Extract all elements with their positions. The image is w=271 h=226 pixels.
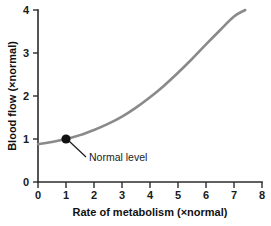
x-tick-label-3: 3 bbox=[119, 189, 125, 201]
normal-level-marker-dot bbox=[61, 134, 70, 143]
y-tick-label-4: 4 bbox=[23, 4, 30, 16]
x-tick-label-4: 4 bbox=[147, 189, 154, 201]
normal-level-annotation-label: Normal level bbox=[89, 151, 147, 163]
y-tick-label-0: 0 bbox=[23, 176, 29, 188]
x-tick-label-6: 6 bbox=[203, 189, 209, 201]
y-tick-label-2: 2 bbox=[23, 90, 29, 102]
y-tick-label-3: 3 bbox=[23, 47, 29, 59]
y-axis-title: Blood flow (×normal) bbox=[6, 41, 18, 151]
x-tick-label-8: 8 bbox=[259, 189, 265, 201]
x-tick-label-0: 0 bbox=[35, 189, 41, 201]
x-tick-label-1: 1 bbox=[63, 189, 69, 201]
x-tick-label-7: 7 bbox=[231, 189, 237, 201]
x-axis-title: Rate of metabolism (×normal) bbox=[73, 206, 228, 218]
x-tick-label-5: 5 bbox=[175, 189, 181, 201]
blood-flow-metabolism-figure: 0 1 2 3 4 0 1 2 3 4 5 6 7 8 Rate of meta… bbox=[0, 0, 271, 226]
y-tick-label-1: 1 bbox=[23, 133, 29, 145]
x-tick-label-2: 2 bbox=[91, 189, 97, 201]
chart-canvas: 0 1 2 3 4 0 1 2 3 4 5 6 7 8 Rate of meta… bbox=[0, 0, 271, 226]
